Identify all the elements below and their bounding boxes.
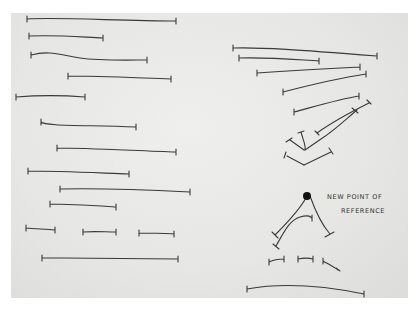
annotation-line-1: NEW POINT OF bbox=[327, 193, 382, 201]
annotation-line-2: REFERENCE bbox=[341, 207, 385, 215]
left-segments bbox=[16, 16, 190, 262]
reference-point-dot bbox=[303, 192, 311, 200]
sketch-drawing bbox=[0, 0, 420, 310]
right-segments bbox=[233, 45, 377, 297]
